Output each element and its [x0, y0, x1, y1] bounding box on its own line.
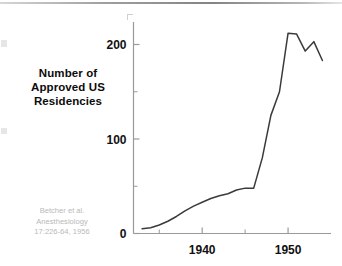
y-tick-label: 100: [106, 133, 126, 147]
x-axis-tick-labels: 19401950: [189, 243, 302, 257]
line-chart: 0100200 19401950: [0, 0, 342, 266]
x-tick-label: 1940: [189, 243, 216, 257]
data-series-line: [142, 33, 322, 229]
x-tick-label: 1950: [275, 243, 302, 257]
y-axis-tick-labels: 0100200: [106, 38, 126, 241]
chart-axes: [134, 22, 332, 234]
y-tick-label: 200: [106, 38, 126, 52]
y-tick-label: 0: [120, 227, 127, 241]
x-axis-ticks: [159, 228, 288, 234]
y-axis-ticks: [134, 45, 140, 234]
